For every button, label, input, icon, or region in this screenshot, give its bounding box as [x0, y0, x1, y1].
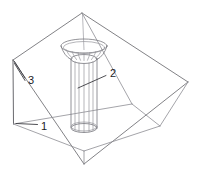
slope-fold-back: [82, 13, 132, 104]
funnel-rib-5: [88, 53, 91, 61]
floor-edge-front-left: [14, 124, 85, 151]
callout-2-label: 2: [110, 67, 116, 79]
funnel-rib-3: [78, 53, 81, 61]
rim-edge-back-right: [82, 13, 188, 82]
vessel-outer-body: [13, 13, 188, 164]
funnel-flare-left: [61, 46, 71, 60]
callout-1-leader-line: [16, 124, 38, 125]
figure-drawing-svg: 1 2 3: [0, 0, 198, 174]
callout-2-leader-line: [78, 76, 106, 89]
slope-fold-right: [160, 82, 188, 126]
rim-edge-front-right: [84, 82, 188, 164]
callout-1-label: 1: [41, 120, 47, 132]
callout-3[interactable]: 3: [15, 62, 35, 86]
vessel-inner-floor: [14, 13, 189, 164]
pipe-assembly: [71, 59, 97, 133]
technical-figure: 1 2 3: [0, 0, 198, 174]
callout-3-leader-line-a: [15, 62, 26, 79]
callout-3-label: 3: [28, 74, 34, 86]
callout-1[interactable]: 1: [16, 120, 47, 132]
callout-3-leader-line-b: [15, 64, 26, 81]
funnel-center-axis: [83, 14, 85, 50]
rim-edge-back-left: [13, 13, 82, 60]
funnel-flare-right: [97, 46, 107, 60]
floor-edge-back-left: [14, 104, 133, 124]
wall-edge-left-vertical: [13, 60, 14, 124]
